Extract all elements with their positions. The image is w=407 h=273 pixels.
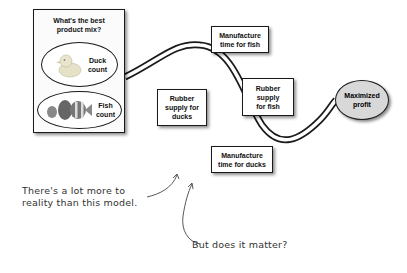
annotation-line-1: There's a lot more to [22, 185, 137, 197]
annotation-arrows [0, 0, 407, 273]
arrow-note-2 [183, 184, 200, 244]
annotation-does-it-matter: But does it matter? [192, 239, 287, 251]
annotation-line-2: reality than this model. [22, 197, 137, 209]
annotation-more-to-reality: There's a lot more to reality than this … [22, 185, 137, 209]
arrow-note-1 [147, 175, 177, 197]
annotation-question: But does it matter? [192, 239, 287, 251]
